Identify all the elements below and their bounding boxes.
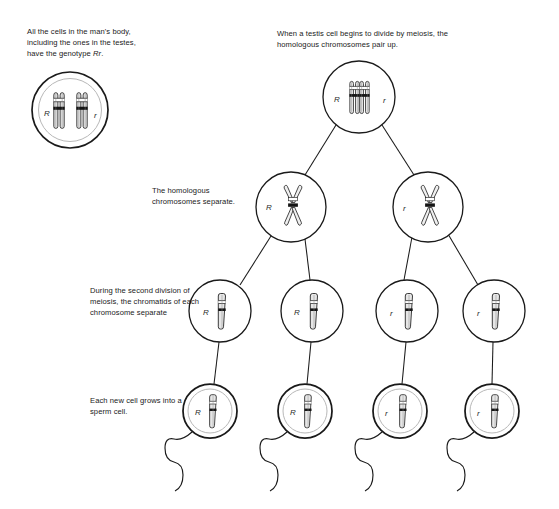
caption-body-cells-genotype: Rr: [93, 49, 101, 58]
connector-row4-2-to-sperm-2: [307, 342, 311, 384]
connector-row4-1-to-sperm-1: [214, 342, 219, 384]
cell-homologous-pair-up: R r: [323, 61, 395, 133]
connector-row3L-to-row4-1: [240, 236, 271, 285]
caption-body-cells-line1: All the cells in the man's body,: [27, 27, 131, 36]
sperm-3-label: r: [385, 409, 388, 418]
row3-left-label: R: [266, 203, 272, 212]
caption-second-division: During the second division of meiosis, t…: [90, 285, 202, 319]
sperm-cell-2: R: [260, 384, 332, 491]
connector-row2-to-row3-left: [305, 125, 336, 175]
caption-body-cells-period: .: [101, 49, 103, 58]
sperm-4-tail: [447, 432, 474, 491]
row3-right-label: r: [403, 204, 406, 213]
sperm-1-label: R: [195, 408, 201, 417]
sperm-3-tail: [355, 432, 382, 491]
sperm-2-tail: [260, 432, 287, 491]
diagram-canvas: R r R r R r: [0, 0, 559, 509]
connector-row3R-to-row4-3: [404, 237, 412, 280]
caption-homologous-separate: The homologous chromosomes separate.: [152, 185, 242, 207]
row4-cell1-label: R: [203, 308, 209, 317]
sperm-cell-3: r: [355, 384, 427, 491]
connector-row3L-to-row4-2: [305, 239, 310, 280]
cell-after-second-division-4: r: [463, 280, 525, 342]
row4-cell2-label: R: [294, 308, 300, 317]
meiosis-diagram-figure: R r R r R r: [0, 0, 559, 509]
cell-body-cell: R r: [32, 72, 108, 148]
sperm-cell-4: r: [447, 384, 519, 491]
cell-after-first-division-right: r: [393, 172, 463, 242]
caption-body-cells-line2: including the ones in the testes,: [27, 38, 136, 47]
row4-cell3-label: r: [390, 309, 393, 318]
connector-row2-to-row3-right: [382, 125, 414, 175]
connector-row4-4-to-sperm-4: [492, 342, 493, 384]
pairing-cell-label-R: R: [334, 95, 340, 104]
caption-testis-divide: When a testis cell begins to divide by m…: [277, 28, 462, 50]
connector-row3R-to-row4-4: [448, 234, 478, 285]
body-cell-label-R: R: [44, 109, 50, 118]
connector-row4-3-to-sperm-3: [402, 342, 406, 384]
sperm-1-tail: [165, 432, 192, 491]
cell-after-first-division-left: R: [256, 172, 326, 242]
sperm-2-label: R: [290, 408, 296, 417]
caption-body-cells-line3-plain: have the genotype: [27, 49, 93, 58]
pairing-cell-label-r: r: [383, 96, 386, 105]
sperm-4-label: r: [477, 409, 480, 418]
row4-cell4-label: r: [477, 309, 480, 318]
caption-body-cells: All the cells in the man's body,includin…: [27, 26, 187, 60]
cell-after-second-division-3: r: [376, 280, 438, 342]
connector-lines: [214, 125, 493, 384]
cell-after-second-division-2: R: [281, 280, 343, 342]
body-cell-label-r: r: [94, 111, 97, 120]
caption-sperm-cell: Each new cell grows into a sperm cell.: [90, 395, 190, 417]
